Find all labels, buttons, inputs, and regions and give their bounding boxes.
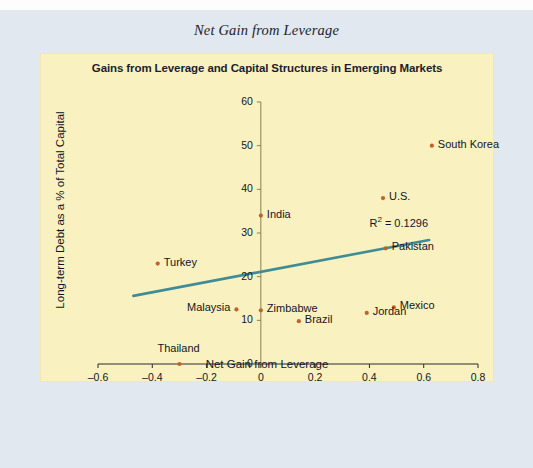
data-point-marker	[259, 213, 263, 217]
x-tick-label: –0.6	[76, 371, 120, 383]
x-tick-label: 0.6	[402, 371, 446, 383]
data-point-label: Jordan	[373, 305, 407, 317]
data-point-marker	[297, 319, 301, 323]
y-tick-label: 40	[215, 182, 253, 194]
y-tick-label: 60	[215, 95, 253, 107]
data-point-label: South Korea	[438, 138, 499, 150]
data-point-label: Pakistan	[392, 240, 434, 252]
data-point-label: Malaysia	[187, 301, 230, 313]
y-tick-label: 20	[215, 270, 253, 282]
x-tick-label: 0.4	[347, 371, 391, 383]
r-squared-annotation: R2 = 0.1296	[369, 215, 428, 229]
x-tick-label: 0.8	[456, 371, 500, 383]
x-tick-label: 0.2	[293, 371, 337, 383]
data-point-label: Brazil	[305, 313, 333, 325]
data-point-label: Turkey	[164, 256, 197, 268]
data-point-label: India	[267, 208, 291, 220]
data-point-label: U.S.	[389, 190, 410, 202]
data-point-marker	[259, 308, 263, 312]
y-axis-title: Long-term Debt as a % of Total Capital	[54, 95, 66, 325]
figure-caption: Net Gain from Leverage	[0, 22, 533, 39]
y-tick-label: 30	[215, 226, 253, 238]
x-tick-label: 0	[239, 371, 283, 383]
x-axis-title: Net Gain from Leverage	[41, 358, 493, 370]
chart-panel: Gains from Leverage and Capital Structur…	[40, 53, 494, 382]
x-tick-label: –0.2	[185, 371, 229, 383]
x-tick-label: –0.4	[130, 371, 174, 383]
y-tick-label: 50	[215, 139, 253, 151]
data-point-marker	[430, 144, 434, 148]
data-point-marker	[156, 261, 160, 265]
data-point-marker	[234, 307, 238, 311]
data-point-marker	[384, 246, 388, 250]
data-point-marker	[381, 196, 385, 200]
axes-group	[98, 102, 478, 368]
y-tick-label: 10	[215, 313, 253, 325]
page-background: Net Gain from Leverage Gains from Levera…	[0, 0, 533, 468]
data-points-group	[156, 144, 434, 367]
data-point-label: Thailand	[157, 342, 199, 354]
data-point-marker	[365, 311, 369, 315]
